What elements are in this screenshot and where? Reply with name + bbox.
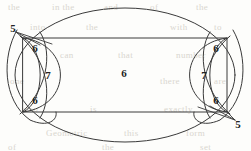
label-left-bottom-region: 6 xyxy=(32,95,38,106)
label-bottom-right-corner: 5 xyxy=(235,119,241,130)
label-left-middle-region: 7 xyxy=(45,70,51,81)
figure-root: thein theandoftheintothewithtocanthatnum… xyxy=(0,0,251,151)
label-top-left-corner: 5 xyxy=(10,23,16,34)
label-right-middle-region: 7 xyxy=(201,70,207,81)
left-lens-outer-arc xyxy=(23,38,61,112)
label-center-region: 6 xyxy=(121,68,127,79)
label-left-top-region: 6 xyxy=(32,43,38,54)
right-lens-outer-arc xyxy=(190,38,228,112)
label-right-top-region: 6 xyxy=(213,43,219,54)
label-right-bottom-region: 6 xyxy=(213,95,219,106)
